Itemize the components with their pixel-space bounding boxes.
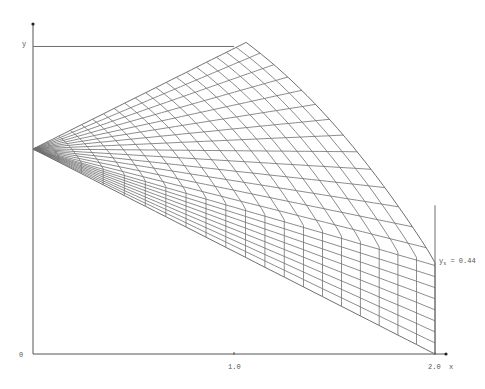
characteristic-line-plus (33, 90, 302, 149)
characteristic-line-plus (33, 135, 343, 149)
characteristic-line-plus (33, 149, 399, 207)
characteristic-line-plus (33, 149, 435, 266)
y-axis-label: y (22, 41, 26, 48)
characteristic-net (33, 42, 435, 354)
sonic-point-annotation: ys = 0.44 (439, 258, 476, 267)
x-axis-label: x (449, 364, 453, 371)
x-tick-label-2: 2.0 (428, 364, 441, 371)
characteristic-mesh-diagram: y 0 1.0 2.0 x ys = 0.44 (0, 0, 485, 389)
characteristic-line-plus (33, 149, 435, 288)
annotation-value: = 0.44 (446, 257, 475, 265)
axes (31, 22, 447, 355)
origin-label: 0 (19, 352, 23, 359)
characteristic-line-plus (33, 53, 260, 149)
mesh-plot (0, 0, 485, 389)
x-axis-arrow-icon (444, 352, 447, 355)
y-axis-arrow-icon (31, 22, 34, 25)
upper-boundary (33, 42, 246, 149)
characteristic-line-plus (33, 65, 274, 149)
lower-boundary (33, 149, 435, 354)
x-tick-label-1: 1.0 (228, 364, 241, 371)
characteristic-line-plus (33, 149, 357, 152)
characteristic-line-plus (33, 149, 435, 310)
characteristic-line-plus (33, 77, 288, 149)
characteristic-line-plus (33, 149, 435, 343)
characteristic-line-plus (33, 149, 435, 332)
